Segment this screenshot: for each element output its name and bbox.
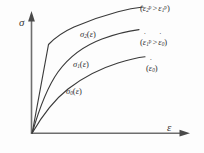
- sigma-0-close-paren: ): [79, 86, 82, 96]
- rate-annotation-middle: (˙ε1p>˙ε0): [140, 38, 167, 47]
- plot-canvas: [0, 0, 204, 153]
- rate-annotation-top: (˙ε2p>˙ε1p): [140, 4, 170, 13]
- rate-top-right-dot: ˙: [159, 0, 162, 7]
- rate-mid-right-dot: ˙: [159, 33, 162, 41]
- y-axis-label-sigma: σ: [19, 17, 24, 28]
- rate-mid-left-term: ˙ε: [143, 38, 146, 47]
- rate-top-left-dot: ˙: [143, 0, 146, 7]
- y-axis-arrow-icon: [28, 11, 35, 22]
- rate-top-left-term: ˙ε: [143, 4, 146, 13]
- rate-bot-left-dot: ˙: [149, 59, 152, 67]
- y-axis: [28, 11, 35, 134]
- rate-bot-close-paren: ): [155, 63, 158, 73]
- rate-mid-relation: >: [151, 37, 158, 47]
- curve-label-sigma-1: σ1(ε): [73, 60, 89, 69]
- rate-annotation-bottom: (˙ε0): [146, 64, 158, 73]
- x-axis-label-epsilon: ε: [167, 122, 171, 133]
- rate-top-right-term: ˙ε: [158, 4, 161, 13]
- stress-strain-figure: σ ε σ2(ε) σ1(ε) σ0(ε) (˙ε2p>˙ε1p) (˙ε1p>…: [0, 0, 204, 153]
- sigma-1-close-paren: ): [86, 59, 89, 69]
- x-axis-arrow-icon: [180, 130, 191, 137]
- curve-label-sigma-0: σ0(ε): [66, 87, 82, 96]
- curve-label-sigma-2: σ2(ε): [80, 30, 96, 39]
- rate-mid-left-dot: ˙: [143, 33, 146, 41]
- sigma-2-close-paren: ): [93, 29, 96, 39]
- rate-mid-close-paren: ): [164, 37, 167, 47]
- rate-mid-right-term: ˙ε: [158, 38, 161, 47]
- curve-sigma-2: [32, 7, 143, 133]
- rate-bot-left-term: ˙ε: [149, 64, 152, 73]
- rate-top-close-paren: ): [167, 3, 170, 13]
- rate-top-relation: >: [151, 3, 158, 13]
